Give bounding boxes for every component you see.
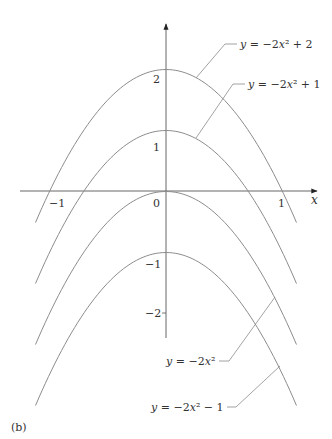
curve-label-3: y = −2x² — [165, 355, 215, 368]
tick-labels: −1 0 1 2 1 −1 −2 x — [49, 73, 318, 320]
leader-line-curve-1 — [196, 44, 237, 78]
x-tick-label: 1 — [278, 197, 285, 210]
curve-label-2: y = −2x² + 1 — [247, 78, 321, 91]
x-axis-label: x — [311, 193, 318, 207]
leader-line-curve-4 — [227, 366, 280, 407]
leader-line-curve-2 — [196, 84, 245, 138]
y-tick-label: 2 — [153, 73, 160, 86]
x-tick-label: 0 — [153, 197, 160, 210]
curve-label-1: y = −2x² + 2 — [239, 38, 313, 51]
y-tick-label: 1 — [153, 141, 160, 154]
leader-line-curve-3 — [219, 297, 275, 361]
curve-label-4: y = −2x² − 1 — [150, 401, 224, 414]
parabola-family-chart: −1 0 1 2 1 −1 −2 x y = −2x² + 2 y = −2x²… — [0, 0, 332, 439]
x-tick-label: −1 — [49, 197, 65, 210]
panel-label: (b) — [11, 421, 27, 434]
y-tick-label: −2 — [145, 307, 161, 320]
y-tick-label: −1 — [145, 258, 161, 271]
leader-lines — [196, 44, 280, 407]
axes — [20, 24, 317, 338]
curve-labels: y = −2x² + 2 y = −2x² + 1 y = −2x² y = −… — [150, 38, 321, 414]
